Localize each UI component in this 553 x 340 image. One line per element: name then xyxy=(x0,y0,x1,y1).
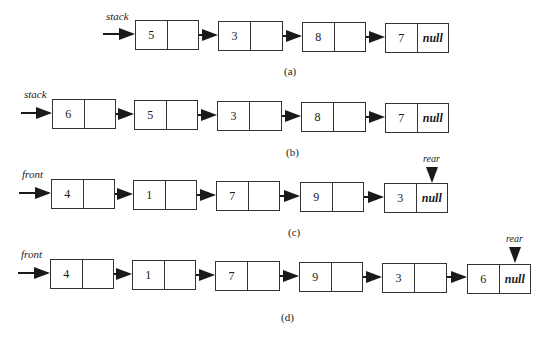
list-node: 3 xyxy=(382,263,447,293)
node-next xyxy=(251,22,282,50)
node-next: null xyxy=(417,184,448,212)
node-next xyxy=(248,262,279,290)
node-data: 4 xyxy=(52,180,84,208)
list-node: 5 xyxy=(135,20,199,50)
node-next: null xyxy=(418,104,449,132)
list-node: 1 xyxy=(132,260,196,290)
node-next xyxy=(332,263,363,291)
node-next xyxy=(334,103,365,131)
stack-pointer-label: stack xyxy=(24,88,47,100)
node-data: 3 xyxy=(385,184,417,212)
list-node: 5 xyxy=(134,100,198,130)
node-next: null xyxy=(500,265,531,293)
list-node: 7null xyxy=(385,103,449,133)
node-data: 7 xyxy=(386,104,418,132)
node-next xyxy=(168,21,199,49)
caption-b: (b) xyxy=(286,146,299,158)
node-data: 3 xyxy=(219,22,251,50)
list-node: 3null xyxy=(384,183,448,213)
node-data: 4 xyxy=(51,260,83,288)
node-next xyxy=(249,182,280,210)
node-next xyxy=(250,102,281,130)
node-next: null xyxy=(418,24,449,52)
list-node: 7 xyxy=(215,261,280,291)
node-data: 7 xyxy=(217,182,249,210)
list-node: 4 xyxy=(51,179,115,209)
node-data: 5 xyxy=(135,101,167,129)
list-node: 9 xyxy=(300,182,364,212)
list-node: 7null xyxy=(385,23,449,53)
node-next xyxy=(83,260,114,288)
node-data: 8 xyxy=(302,103,334,131)
front-pointer-label: front xyxy=(21,248,42,260)
list-node: 4 xyxy=(50,259,114,289)
node-next xyxy=(167,101,198,129)
stack-pointer-label: stack xyxy=(106,10,129,22)
node-next xyxy=(165,261,196,289)
list-node: 6null xyxy=(467,264,531,294)
rear-pointer-label: rear xyxy=(423,153,440,164)
caption-a: (a) xyxy=(284,65,296,77)
node-data: 5 xyxy=(136,21,168,49)
node-data: 1 xyxy=(133,261,165,289)
node-data: 8 xyxy=(303,23,335,51)
node-data: 1 xyxy=(134,181,166,209)
node-next xyxy=(333,183,364,211)
node-data: 3 xyxy=(383,264,415,292)
caption-c: (c) xyxy=(288,226,300,238)
node-data: 7 xyxy=(216,262,248,290)
node-data: 7 xyxy=(386,24,418,52)
caption-d: (d) xyxy=(281,311,294,323)
list-node: 6 xyxy=(52,99,116,129)
node-data: 9 xyxy=(300,263,332,291)
list-node: 1 xyxy=(133,180,197,210)
node-data: 3 xyxy=(218,102,250,130)
list-node: 3 xyxy=(218,21,283,51)
node-data: 9 xyxy=(301,183,333,211)
node-data: 6 xyxy=(53,100,85,128)
node-next xyxy=(166,181,197,209)
list-node: 9 xyxy=(299,262,363,292)
node-data: 6 xyxy=(468,265,500,293)
rear-pointer-label: rear xyxy=(506,233,523,244)
node-next xyxy=(85,100,116,128)
list-node: 8 xyxy=(301,102,366,132)
list-node: 8 xyxy=(302,22,366,52)
front-pointer-label: front xyxy=(22,168,43,180)
list-node: 3 xyxy=(217,101,282,131)
node-next xyxy=(84,180,115,208)
node-next xyxy=(335,23,366,51)
node-next xyxy=(415,264,446,292)
list-node: 7 xyxy=(216,181,280,211)
